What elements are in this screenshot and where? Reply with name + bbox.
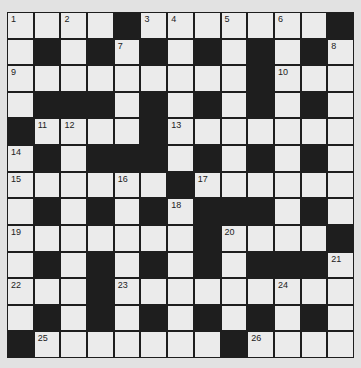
grid-cell[interactable] bbox=[195, 66, 220, 91]
grid-cell[interactable] bbox=[141, 66, 166, 91]
grid-cell[interactable] bbox=[275, 332, 300, 357]
grid-cell[interactable] bbox=[222, 40, 247, 65]
grid-cell[interactable] bbox=[275, 306, 300, 331]
grid-cell[interactable] bbox=[115, 306, 140, 331]
grid-cell[interactable] bbox=[328, 66, 353, 91]
grid-cell[interactable] bbox=[8, 40, 33, 65]
grid-cell[interactable]: 7 bbox=[115, 40, 140, 65]
grid-cell[interactable] bbox=[61, 66, 86, 91]
grid-cell[interactable] bbox=[222, 146, 247, 171]
grid-cell[interactable] bbox=[302, 332, 327, 357]
grid-cell[interactable] bbox=[61, 199, 86, 224]
grid-cell[interactable]: 10 bbox=[275, 66, 300, 91]
grid-cell[interactable]: 11 bbox=[35, 119, 60, 144]
grid-cell[interactable] bbox=[115, 119, 140, 144]
grid-cell[interactable]: 8 bbox=[328, 40, 353, 65]
grid-cell[interactable]: 18 bbox=[168, 199, 193, 224]
grid-cell[interactable] bbox=[195, 13, 220, 38]
grid-cell[interactable] bbox=[115, 226, 140, 251]
grid-cell[interactable]: 5 bbox=[222, 13, 247, 38]
grid-cell[interactable] bbox=[88, 226, 113, 251]
grid-cell[interactable]: 15 bbox=[8, 173, 33, 198]
grid-cell[interactable]: 21 bbox=[328, 253, 353, 278]
grid-cell[interactable]: 25 bbox=[35, 332, 60, 357]
grid-cell[interactable] bbox=[275, 93, 300, 118]
grid-cell[interactable] bbox=[141, 173, 166, 198]
grid-cell[interactable] bbox=[35, 226, 60, 251]
grid-cell[interactable]: 20 bbox=[222, 226, 247, 251]
grid-cell[interactable]: 2 bbox=[61, 13, 86, 38]
grid-cell[interactable]: 12 bbox=[61, 119, 86, 144]
grid-cell[interactable] bbox=[248, 279, 273, 304]
grid-cell[interactable] bbox=[35, 66, 60, 91]
grid-cell[interactable] bbox=[115, 199, 140, 224]
grid-cell[interactable] bbox=[222, 93, 247, 118]
grid-cell[interactable] bbox=[61, 279, 86, 304]
grid-cell[interactable] bbox=[275, 173, 300, 198]
grid-cell[interactable] bbox=[222, 253, 247, 278]
grid-cell[interactable] bbox=[61, 253, 86, 278]
grid-cell[interactable]: 9 bbox=[8, 66, 33, 91]
grid-cell[interactable] bbox=[302, 66, 327, 91]
grid-cell[interactable] bbox=[195, 279, 220, 304]
grid-cell[interactable] bbox=[248, 119, 273, 144]
grid-cell[interactable] bbox=[275, 146, 300, 171]
grid-cell[interactable] bbox=[195, 119, 220, 144]
grid-cell[interactable] bbox=[328, 93, 353, 118]
grid-cell[interactable] bbox=[141, 279, 166, 304]
grid-cell[interactable] bbox=[115, 253, 140, 278]
grid-cell[interactable] bbox=[302, 119, 327, 144]
grid-cell[interactable] bbox=[115, 66, 140, 91]
grid-cell[interactable] bbox=[141, 226, 166, 251]
grid-cell[interactable]: 16 bbox=[115, 173, 140, 198]
grid-cell[interactable]: 4 bbox=[168, 13, 193, 38]
grid-cell[interactable] bbox=[168, 279, 193, 304]
grid-cell[interactable] bbox=[222, 119, 247, 144]
grid-cell[interactable] bbox=[328, 306, 353, 331]
grid-cell[interactable] bbox=[168, 253, 193, 278]
grid-cell[interactable] bbox=[248, 173, 273, 198]
grid-cell[interactable] bbox=[275, 226, 300, 251]
grid-cell[interactable] bbox=[88, 13, 113, 38]
grid-cell[interactable] bbox=[275, 199, 300, 224]
grid-cell[interactable] bbox=[168, 40, 193, 65]
grid-cell[interactable] bbox=[35, 279, 60, 304]
grid-cell[interactable] bbox=[328, 173, 353, 198]
grid-cell[interactable] bbox=[328, 119, 353, 144]
grid-cell[interactable]: 24 bbox=[275, 279, 300, 304]
grid-cell[interactable]: 6 bbox=[275, 13, 300, 38]
grid-cell[interactable] bbox=[61, 306, 86, 331]
grid-cell[interactable]: 1 bbox=[8, 13, 33, 38]
grid-cell[interactable] bbox=[195, 332, 220, 357]
grid-cell[interactable]: 23 bbox=[115, 279, 140, 304]
grid-cell[interactable]: 26 bbox=[248, 332, 273, 357]
grid-cell[interactable] bbox=[275, 40, 300, 65]
grid-cell[interactable] bbox=[222, 306, 247, 331]
grid-cell[interactable] bbox=[328, 199, 353, 224]
grid-cell[interactable] bbox=[61, 40, 86, 65]
grid-cell[interactable] bbox=[8, 253, 33, 278]
grid-cell[interactable] bbox=[328, 279, 353, 304]
grid-cell[interactable] bbox=[302, 279, 327, 304]
grid-cell[interactable] bbox=[88, 332, 113, 357]
grid-cell[interactable] bbox=[8, 199, 33, 224]
grid-cell[interactable] bbox=[115, 332, 140, 357]
grid-cell[interactable] bbox=[88, 119, 113, 144]
grid-cell[interactable] bbox=[8, 93, 33, 118]
grid-cell[interactable] bbox=[61, 146, 86, 171]
grid-cell[interactable] bbox=[168, 306, 193, 331]
grid-cell[interactable] bbox=[168, 146, 193, 171]
grid-cell[interactable] bbox=[8, 306, 33, 331]
grid-cell[interactable] bbox=[222, 173, 247, 198]
grid-cell[interactable] bbox=[302, 13, 327, 38]
grid-cell[interactable] bbox=[302, 226, 327, 251]
grid-cell[interactable]: 19 bbox=[8, 226, 33, 251]
grid-cell[interactable] bbox=[168, 66, 193, 91]
grid-cell[interactable] bbox=[141, 332, 166, 357]
grid-cell[interactable] bbox=[61, 173, 86, 198]
grid-cell[interactable] bbox=[328, 146, 353, 171]
grid-cell[interactable] bbox=[35, 173, 60, 198]
grid-cell[interactable] bbox=[88, 173, 113, 198]
grid-cell[interactable] bbox=[168, 332, 193, 357]
grid-cell[interactable]: 3 bbox=[141, 13, 166, 38]
